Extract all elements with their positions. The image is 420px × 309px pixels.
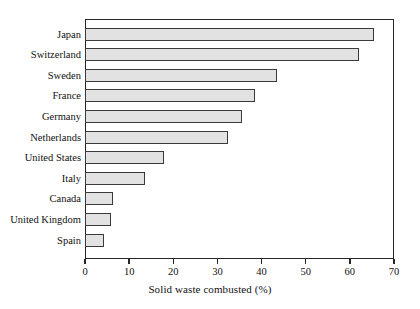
tick-label-30: 30 — [212, 265, 223, 278]
value-axis-ticks: 010203040506070 — [0, 259, 420, 285]
bar-netherlands — [85, 131, 228, 144]
tick-mark — [128, 259, 129, 264]
bar-switzerland — [85, 48, 359, 61]
bar-canada — [85, 192, 113, 205]
bar-sweden — [85, 69, 277, 82]
bar-france — [85, 89, 255, 102]
tick-mark — [393, 259, 394, 264]
tick-mark — [261, 259, 262, 264]
category-label-canada: Canada — [0, 192, 81, 205]
tick-mark — [217, 259, 218, 264]
tick-label-60: 60 — [345, 265, 356, 278]
tick-mark — [173, 259, 174, 264]
tick-label-40: 40 — [256, 265, 267, 278]
bar-italy — [85, 172, 145, 185]
category-label-spain: Spain — [0, 234, 81, 247]
category-label-netherlands: Netherlands — [0, 131, 81, 144]
category-label-united-kingdom: United Kingdom — [0, 213, 81, 226]
category-label-france: France — [0, 89, 81, 102]
bar-germany — [85, 110, 242, 123]
tick-mark — [349, 259, 350, 264]
tick-mark — [305, 259, 306, 264]
category-label-sweden: Sweden — [0, 69, 81, 82]
tick-mark — [84, 259, 85, 264]
bar-united-states — [85, 151, 164, 164]
tick-label-20: 20 — [168, 265, 179, 278]
bar-japan — [85, 28, 374, 41]
category-label-japan: Japan — [0, 28, 81, 41]
tick-label-50: 50 — [300, 265, 311, 278]
category-axis-labels: JapanSwitzerlandSwedenFranceGermanyNethe… — [0, 19, 81, 259]
x-axis-title: Solid waste combusted (%) — [0, 283, 420, 295]
category-label-italy: Italy — [0, 172, 81, 185]
tick-label-10: 10 — [124, 265, 135, 278]
bar-chart-figure: JapanSwitzerlandSwedenFranceGermanyNethe… — [0, 0, 420, 309]
category-label-germany: Germany — [0, 110, 81, 123]
tick-label-70: 70 — [389, 265, 400, 278]
bar-united-kingdom — [85, 213, 111, 226]
bar-spain — [85, 234, 104, 247]
category-label-united-states: United States — [0, 151, 81, 164]
bars-container — [85, 19, 394, 259]
category-label-switzerland: Switzerland — [0, 48, 81, 61]
tick-label-0: 0 — [82, 265, 87, 278]
